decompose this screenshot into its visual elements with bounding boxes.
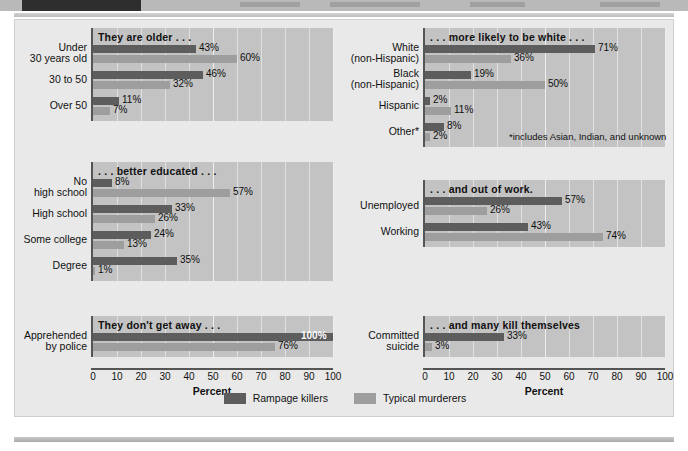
x-tick-right-3: 30 — [485, 371, 509, 382]
legend-item-0: Rampage killers — [224, 392, 328, 404]
category-label-line: Other* — [345, 126, 419, 137]
gridline — [617, 316, 618, 357]
section-title-employment: . . . and out of work. — [430, 183, 533, 195]
banner-smudge-1 — [240, 2, 300, 7]
category-label-race-3: Other* — [345, 126, 419, 137]
x-tick-left-0: 0 — [81, 371, 105, 382]
bar-value-apprehension-0-rampage: 100% — [301, 332, 327, 340]
section-title-race: . . . more likely to be white . . . — [430, 31, 585, 43]
gridline — [285, 28, 286, 121]
bar-education-1-typical — [93, 215, 155, 223]
bar-value-employment-0-rampage: 57% — [565, 196, 585, 204]
gridline — [593, 316, 594, 357]
gridline — [641, 180, 642, 247]
gridline — [309, 28, 310, 121]
category-label-line: suicide — [345, 341, 419, 352]
bar-value-education-1-rampage: 33% — [175, 204, 195, 212]
bar-value-education-3-typical: 1% — [98, 266, 112, 274]
bar-value-education-2-rampage: 24% — [154, 230, 174, 238]
bar-value-education-2-typical: 13% — [127, 240, 147, 248]
category-label-employment-0: Unemployed — [345, 200, 419, 211]
bar-employment-1-typical — [425, 233, 603, 241]
x-tick-left-2: 20 — [129, 371, 153, 382]
category-label-line: (non-Hispanic) — [345, 79, 419, 90]
x-tick-right-0: 0 — [413, 371, 437, 382]
legend-label-0: Rampage killers — [253, 392, 328, 404]
category-label-age-0: Under30 years old — [15, 42, 87, 64]
bar-age-1-typical — [93, 81, 170, 89]
legend-swatch-dark — [224, 393, 246, 404]
bar-age-0-rampage — [93, 45, 196, 53]
banner-smudge-4 — [600, 2, 660, 7]
bar-education-0-typical — [93, 189, 230, 197]
chart-figure: They are older . . .43%60%Under30 years … — [14, 19, 674, 417]
top-banner — [0, 0, 688, 11]
banner-smudge-3 — [470, 2, 525, 7]
gridline — [665, 316, 666, 357]
gridline — [333, 162, 334, 281]
bottom-divider — [14, 437, 674, 442]
x-tick-left-10: 100 — [321, 371, 345, 382]
category-label-line: Over 50 — [15, 100, 87, 111]
bar-value-education-0-rampage: 8% — [115, 178, 129, 186]
gridline — [665, 180, 666, 247]
bar-value-race-3-typical: 2% — [433, 132, 447, 140]
category-label-line: High school — [15, 208, 87, 219]
bar-value-race-2-typical: 11% — [454, 106, 473, 114]
gridline — [333, 316, 334, 357]
bar-value-education-1-typical: 26% — [158, 214, 178, 222]
x-tick-right-9: 90 — [629, 371, 653, 382]
bar-value-age-2-rampage: 11% — [122, 96, 141, 104]
x-tick-left-1: 10 — [105, 371, 129, 382]
gridline — [285, 162, 286, 281]
category-label-age-1: 30 to 50 — [15, 74, 87, 85]
x-tick-left-6: 60 — [225, 371, 249, 382]
bar-race-3-typical — [425, 133, 430, 141]
bar-suicide-0-typical — [425, 343, 432, 351]
x-tick-right-1: 10 — [437, 371, 461, 382]
banner-divider — [14, 13, 674, 17]
gridline — [333, 28, 334, 121]
category-label-line: Unemployed — [345, 200, 419, 211]
bar-value-employment-0-typical: 26% — [490, 206, 510, 214]
bar-value-race-2-rampage: 2% — [433, 96, 447, 104]
bar-value-age-2-typical: 7% — [113, 106, 127, 114]
x-tick-right-7: 70 — [581, 371, 605, 382]
gridline — [213, 162, 214, 281]
gridline — [641, 316, 642, 357]
bar-race-2-rampage — [425, 97, 430, 105]
bar-value-apprehension-0-typical: 76% — [278, 342, 298, 350]
gridline — [665, 28, 666, 147]
legend-item-1: Typical murderers — [354, 392, 466, 404]
category-label-race-1: Black(non-Hispanic) — [345, 68, 419, 90]
gridline — [261, 162, 262, 281]
category-label-line: 30 to 50 — [15, 74, 87, 85]
bar-apprehension-0-typical — [93, 343, 275, 351]
bar-value-race-1-rampage: 19% — [474, 70, 494, 78]
category-label-race-2: Hispanic — [345, 100, 419, 111]
banner-title-block — [22, 0, 141, 11]
x-tick-right-8: 80 — [605, 371, 629, 382]
x-tick-right-6: 60 — [557, 371, 581, 382]
bar-employment-0-typical — [425, 207, 487, 215]
category-label-age-2: Over 50 — [15, 100, 87, 111]
category-label-line: Hispanic — [345, 100, 419, 111]
legend-label-1: Typical murderers — [383, 392, 466, 404]
gridline — [641, 28, 642, 147]
bar-value-age-1-rampage: 46% — [206, 70, 226, 78]
category-label-employment-1: Working — [345, 226, 419, 237]
bar-age-0-typical — [93, 55, 237, 63]
bar-education-0-rampage — [93, 179, 112, 187]
footnote-race: *includes Asian, Indian, and unknown — [509, 131, 666, 142]
bar-race-0-typical — [425, 55, 511, 63]
category-label-line: high school — [15, 187, 87, 198]
category-label-line: Working — [345, 226, 419, 237]
x-tick-right-10: 100 — [653, 371, 677, 382]
gridline — [309, 162, 310, 281]
category-label-education-2: Some college — [15, 234, 87, 245]
banner-smudge-2 — [330, 2, 420, 7]
category-label-education-1: High school — [15, 208, 87, 219]
x-tick-left-7: 70 — [249, 371, 273, 382]
x-tick-left-4: 40 — [177, 371, 201, 382]
bar-value-race-3-rampage: 8% — [447, 122, 461, 130]
